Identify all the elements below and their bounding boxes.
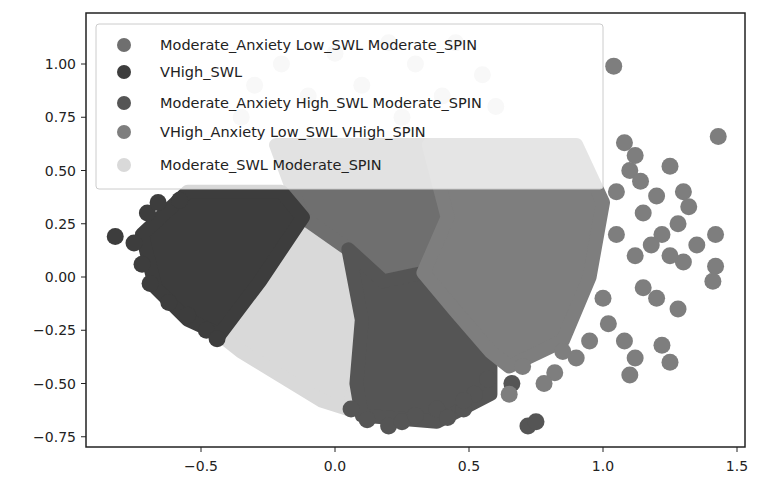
x-tick-label: 1.0 <box>592 458 614 474</box>
data-point <box>209 330 226 347</box>
y-tick-label: −0.25 <box>33 322 76 338</box>
data-point <box>536 375 553 392</box>
legend-label: Moderate_Anxiety Low_SWL Moderate_SPIN <box>160 37 477 53</box>
data-point <box>479 371 496 388</box>
data-point <box>635 205 652 222</box>
x-tick-label: 0.0 <box>324 458 346 474</box>
legend-item: Moderate_Anxiety Low_SWL Moderate_SPIN <box>117 37 477 53</box>
data-point <box>627 349 644 366</box>
legend-marker-icon <box>117 38 131 52</box>
data-point <box>514 358 531 375</box>
legend-item: Moderate_Anxiety High_SWL Moderate_SPIN <box>117 95 482 111</box>
data-point <box>643 237 660 254</box>
x-tick-label: 0.5 <box>458 458 480 474</box>
x-tick-label: −0.5 <box>184 458 218 474</box>
data-point <box>150 194 167 211</box>
data-point <box>635 279 652 296</box>
legend-label: Moderate_SWL Moderate_SPIN <box>160 157 382 173</box>
data-point <box>160 294 177 311</box>
legend-marker-icon <box>117 158 131 172</box>
data-point <box>670 300 687 317</box>
data-point <box>126 234 143 251</box>
y-tick-label: −0.75 <box>33 429 76 445</box>
data-point <box>600 315 617 332</box>
data-point <box>455 392 472 409</box>
data-point <box>653 337 670 354</box>
data-point <box>359 411 376 428</box>
x-tick-label: 1.5 <box>726 458 748 474</box>
data-point <box>662 354 679 371</box>
y-tick-label: −0.50 <box>33 376 76 392</box>
data-point <box>616 332 633 349</box>
data-point <box>107 228 124 245</box>
data-point <box>680 198 697 215</box>
data-point <box>621 366 638 383</box>
data-point <box>608 226 625 243</box>
legend-marker-icon <box>117 96 131 110</box>
data-point <box>627 147 644 164</box>
data-point <box>632 173 649 190</box>
data-point <box>407 407 424 424</box>
legend-item: VHigh_Anxiety Low_SWL VHigh_SPIN <box>117 124 426 140</box>
data-point <box>662 158 679 175</box>
data-point <box>608 183 625 200</box>
data-point <box>134 256 151 273</box>
legend-label: VHigh_SWL <box>160 64 242 80</box>
data-point <box>662 247 679 264</box>
data-point <box>707 258 724 275</box>
data-point <box>688 237 705 254</box>
legend-marker-icon <box>117 65 131 79</box>
data-point <box>648 188 665 205</box>
legend: Moderate_Anxiety Low_SWL Moderate_SPIN V… <box>96 24 603 189</box>
data-point <box>528 413 545 430</box>
data-point <box>554 343 571 360</box>
data-point <box>627 247 644 264</box>
data-point <box>648 290 665 307</box>
legend-label: VHigh_Anxiety Low_SWL VHigh_SPIN <box>160 124 426 140</box>
data-point <box>707 226 724 243</box>
data-point <box>343 401 360 418</box>
data-point <box>605 58 622 75</box>
y-tick-label: 0.00 <box>45 269 76 285</box>
legend-label: Moderate_Anxiety High_SWL Moderate_SPIN <box>160 95 482 111</box>
data-point <box>670 215 687 232</box>
x-axis: −0.50.00.51.01.5 <box>184 447 748 474</box>
y-axis: 1.000.750.500.250.00−0.25−0.50−0.75 <box>33 56 86 445</box>
data-point <box>710 128 727 145</box>
data-point <box>704 273 721 290</box>
legend-marker-icon <box>117 125 131 139</box>
data-point <box>581 332 598 349</box>
data-point <box>171 192 188 209</box>
data-point <box>501 386 518 403</box>
y-tick-label: 0.50 <box>45 163 76 179</box>
data-point <box>595 290 612 307</box>
scatter-chart: −0.50.00.51.01.5 1.000.750.500.250.00−0.… <box>0 0 761 497</box>
data-point <box>142 275 159 292</box>
data-point <box>179 307 196 324</box>
y-tick-label: 0.75 <box>45 109 76 125</box>
data-point <box>439 409 456 426</box>
data-point <box>675 183 692 200</box>
y-tick-label: 0.25 <box>45 216 76 232</box>
y-tick-label: 1.00 <box>45 56 76 72</box>
